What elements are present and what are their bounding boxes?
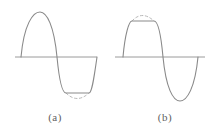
panel-a: (a) — [0, 0, 110, 136]
panel-a-caption: (a) — [0, 110, 110, 124]
panel-b: (b) — [110, 0, 220, 136]
dashed-unclipped-trough — [66, 93, 89, 99]
panel-b-plot — [110, 0, 220, 112]
clipped-sine-wave — [123, 21, 198, 101]
waveform-figure: (a) (b) — [0, 0, 220, 136]
clipped-sine-wave — [21, 12, 97, 93]
dashed-unclipped-peak — [132, 16, 154, 22]
panel-b-caption: (b) — [110, 110, 220, 124]
panel-a-plot — [0, 0, 110, 112]
